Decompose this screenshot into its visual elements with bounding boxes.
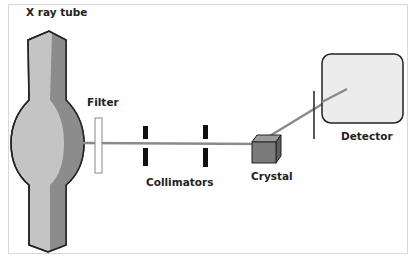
incident-beam (82, 143, 265, 144)
collimator-2-bottom (203, 148, 208, 167)
filter-label: Filter (87, 96, 119, 108)
crystal-label: Crystal (251, 170, 293, 182)
detector-shape (322, 54, 403, 123)
crystal-shape (252, 135, 281, 163)
collimator-1-top (143, 126, 148, 139)
collimator-2-top (203, 125, 208, 139)
xray-tube-label: X ray tube (26, 6, 87, 18)
collimators-label: Collimators (146, 176, 213, 188)
xray-tube-shape (11, 31, 84, 252)
detector-label: Detector (341, 130, 393, 142)
collimator-1-bottom (143, 148, 148, 166)
filter-shape (95, 118, 102, 173)
